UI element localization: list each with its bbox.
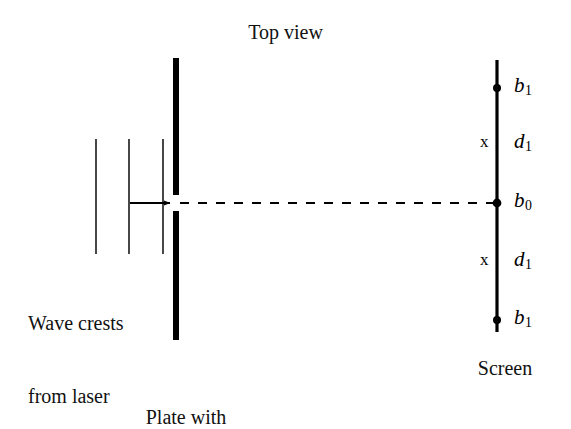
screen-dot-b1-bottom bbox=[493, 316, 501, 324]
wave-crest-lines bbox=[96, 139, 163, 254]
point-label-subscript: 1 bbox=[525, 257, 532, 272]
screen-caption: Screen bbox=[440, 356, 570, 380]
point-label-base: b bbox=[514, 188, 525, 212]
point-label-base: d bbox=[514, 129, 525, 153]
point-label-base: b bbox=[514, 73, 525, 97]
point-label-base: d bbox=[514, 247, 525, 271]
screen-dot-b1-top bbox=[493, 84, 501, 92]
point-label-subscript: 1 bbox=[525, 139, 532, 154]
plate-caption-line-1: Plate with bbox=[96, 405, 276, 429]
point-label-base: b bbox=[514, 305, 525, 329]
wave-crests-caption-line-1: Wave crests bbox=[28, 311, 124, 335]
screen-point-label-b1-bottom: b1 bbox=[514, 305, 532, 331]
single-slit-diffraction-figure: Top view Wave crests from laser Plate wi… bbox=[0, 0, 571, 429]
point-label-subscript: 1 bbox=[525, 83, 532, 98]
screen-x-marker-d1-lower: x bbox=[480, 250, 489, 270]
screen-x-marker-d1-upper: x bbox=[480, 132, 489, 152]
point-label-subscript: 1 bbox=[525, 315, 532, 330]
figure-title: Top view bbox=[0, 20, 571, 44]
screen-dot-b0-center bbox=[493, 199, 502, 208]
screen-point-label-b1-top: b1 bbox=[514, 73, 532, 99]
point-label-subscript: 0 bbox=[525, 198, 532, 213]
screen-point-label-d1-upper: d1 bbox=[514, 129, 532, 155]
screen-point-label-d1-lower: d1 bbox=[514, 247, 532, 273]
screen-point-label-b0-center: b0 bbox=[514, 188, 532, 214]
plate-caption: Plate with one slit bbox=[96, 356, 276, 429]
